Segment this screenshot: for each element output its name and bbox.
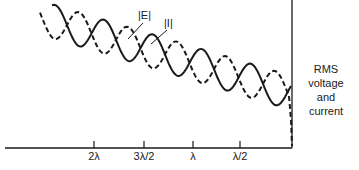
tick-label-half-lambda: λ/2 (233, 150, 248, 162)
y-axis-label: RMS voltage and current (300, 62, 352, 118)
tick-label-lambda: λ (190, 150, 196, 162)
y-axis-label-line3: current (300, 104, 352, 118)
tick-label-3-half-lambda: 3λ/2 (134, 150, 155, 162)
y-axis-label-line2: and (300, 90, 352, 104)
tick-label-2-lambda: 2λ (88, 150, 100, 162)
axis-ticks (94, 141, 240, 148)
voltage-curve (40, 12, 292, 146)
voltage-label: |E| (138, 9, 151, 21)
current-label: |I| (164, 17, 173, 29)
y-axis-label-line1: RMS voltage (300, 62, 352, 90)
